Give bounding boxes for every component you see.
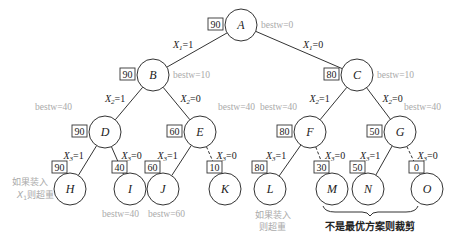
edge-label-f-l: X3=1 — [265, 150, 286, 163]
bound-box-k: 10 — [207, 161, 222, 173]
bound-box-a: 90 — [208, 18, 223, 30]
bound-box-m: 30 — [314, 161, 329, 173]
svg-text:50: 50 — [353, 162, 363, 173]
bound-box-g: 50 — [367, 125, 382, 137]
bound-box-b: 90 — [120, 68, 135, 80]
svg-text:60: 60 — [170, 126, 180, 137]
bestw-e: bestw=40 — [218, 102, 255, 112]
node-label: L — [266, 182, 274, 196]
svg-text:60: 60 — [148, 162, 158, 173]
svg-text:0: 0 — [414, 162, 419, 173]
node-label: H — [65, 182, 76, 196]
h-overweight-note-line1: 如果装入 — [12, 176, 48, 187]
bestw-j: bestw=60 — [148, 209, 185, 219]
bestw-d: bestw=40 — [35, 102, 72, 112]
node-label: M — [326, 182, 338, 196]
node-c: C — [341, 59, 373, 91]
edge-labels: X1=1X1=0X2=1X2=0X2=1X2=0X3=1X3=0X3=1X3=0… — [63, 39, 438, 163]
prune-brace — [323, 206, 418, 216]
node-o: O — [411, 173, 443, 205]
edge-label-a-b: X1=1 — [172, 39, 193, 52]
node-label: J — [160, 182, 166, 196]
svg-text:90: 90 — [123, 69, 133, 80]
bound-box-e: 60 — [167, 125, 182, 137]
node-label: K — [220, 182, 230, 196]
node-k: K — [209, 173, 241, 205]
svg-text:80: 80 — [255, 162, 265, 173]
node-j: J — [147, 173, 179, 205]
svg-text:90: 90 — [75, 126, 85, 137]
svg-text:50: 50 — [370, 126, 380, 137]
node-label: D — [100, 125, 110, 139]
node-g: G — [384, 116, 416, 148]
edge-label-b-d: X2=1 — [104, 93, 125, 106]
svg-text:90: 90 — [55, 162, 65, 173]
bound-box-j: 60 — [145, 161, 160, 173]
l-overweight-note-line2: 则超重 — [259, 221, 286, 232]
bound-box-i: 40 — [112, 161, 127, 173]
l-overweight-note-line1: 如果装入 — [255, 209, 291, 220]
bound-box-n: 50 — [350, 161, 365, 173]
node-l: L — [254, 173, 286, 205]
bestw-g: bestw=40 — [404, 102, 441, 112]
edge-label-c-f: X2=1 — [309, 93, 330, 106]
h-overweight-note-line2: X1则超重 — [16, 189, 54, 201]
edge-label-c-g: X2=0 — [382, 93, 403, 106]
edge-label-a-c: X1=0 — [302, 39, 323, 52]
node-label: O — [423, 182, 432, 196]
bestw-f: bestw=40 — [260, 102, 297, 112]
svg-text:80: 80 — [280, 126, 290, 137]
bestw-c: bestw=10 — [377, 70, 414, 80]
bound-box-l: 80 — [252, 161, 267, 173]
node-label: F — [305, 125, 314, 139]
node-a: A — [225, 9, 257, 41]
node-label: C — [353, 68, 362, 82]
node-b: B — [137, 59, 169, 91]
svg-text:30: 30 — [317, 162, 327, 173]
bound-box-d: 90 — [72, 125, 87, 137]
prune-note: 不是最优方案则裁剪 — [325, 220, 415, 232]
edge-a-c — [256, 31, 343, 68]
node-e: E — [184, 116, 216, 148]
bound-box-f: 80 — [277, 125, 292, 137]
bound-box-o: 0 — [409, 161, 424, 173]
node-label: A — [236, 18, 245, 32]
node-m: M — [316, 173, 348, 205]
edge-label-b-e: X2=0 — [180, 93, 201, 106]
svg-text:80: 80 — [327, 69, 337, 80]
svg-text:40: 40 — [115, 162, 125, 173]
bound-box-h: 90 — [52, 161, 67, 173]
svg-text:10: 10 — [210, 162, 220, 173]
branch-and-bound-tree: X1=1X1=0X2=1X2=0X2=1X2=0X3=1X3=0X3=1X3=0… — [0, 0, 452, 237]
node-label: E — [195, 125, 204, 139]
bound-box-c: 80 — [324, 68, 339, 80]
svg-text:90: 90 — [211, 19, 221, 30]
node-label: B — [149, 68, 157, 82]
node-i: I — [114, 173, 146, 205]
node-n: N — [352, 173, 384, 205]
bestw-a: bestw=0 — [261, 20, 294, 30]
node-f: F — [294, 116, 326, 148]
bestw-b: bestw=10 — [173, 70, 210, 80]
bestw-i: bestw=40 — [102, 209, 139, 219]
node-label: G — [396, 125, 405, 139]
node-label: N — [363, 182, 373, 196]
node-d: D — [89, 116, 121, 148]
node-h: H — [54, 173, 86, 205]
